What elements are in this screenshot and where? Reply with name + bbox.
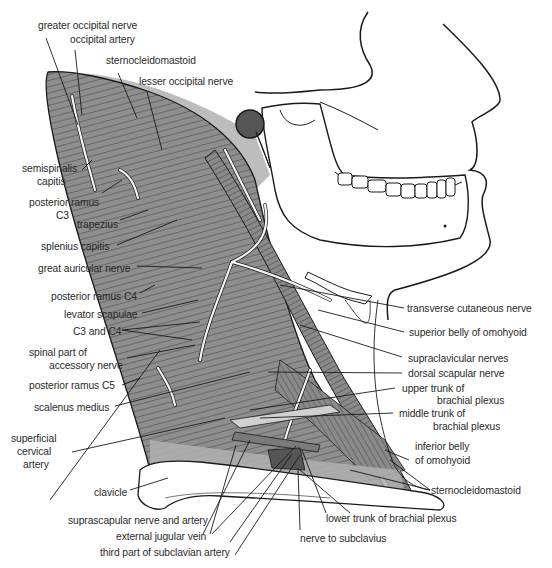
- label-posterior-ramus-c3-line1: posterior ramus: [29, 196, 99, 208]
- label-superficial-cervical-artery-line1: superficial: [11, 432, 56, 444]
- label-upper-trunk-line2: brachial plexus: [437, 394, 504, 406]
- label-superior-belly-omohyoid: superior belly of omohyoid: [409, 326, 527, 338]
- label-transverse-cutaneous-nerve: transverse cutaneous nerve: [407, 302, 532, 314]
- label-external-jugular-vein: external jugular vein: [116, 530, 206, 542]
- label-occipital-artery: occipital artery: [70, 33, 135, 45]
- neck-illustration: [0, 0, 552, 568]
- label-inferior-belly-omohyoid-line2: of omohyoid: [415, 454, 470, 466]
- label-posterior-ramus-c4: posterior ramus C4: [51, 290, 137, 302]
- label-c3-and-c4: C3 and C4: [73, 325, 121, 337]
- label-third-part-subclavian-artery: third part of subclavian artery: [100, 546, 230, 558]
- label-superficial-cervical-artery-line3: artery: [23, 458, 49, 470]
- label-upper-trunk-line1: upper trunk of: [402, 382, 464, 394]
- label-semispinalis-capitis-line1: semispinalis: [22, 162, 77, 174]
- label-sternocleidomastoid-top: sternocleidomastoid: [106, 54, 196, 66]
- label-splenius-capitis: splenius capitis: [41, 240, 109, 252]
- label-trapezius: trapezius: [77, 218, 118, 230]
- label-levator-scapulae: levator scapulae: [64, 308, 137, 320]
- label-suprascapular-nerve-artery: suprascapular nerve and artery: [68, 514, 208, 526]
- label-inferior-belly-omohyoid-line1: inferior belly: [415, 440, 469, 452]
- label-great-auricular-nerve: great auricular nerve: [38, 262, 130, 274]
- label-lesser-occipital-nerve: lesser occipital nerve: [139, 75, 233, 87]
- mandible: [262, 102, 468, 247]
- label-spinal-accessory-line2: accessory nerve: [49, 359, 123, 371]
- label-nerve-to-subclavius: nerve to subclavius: [300, 532, 386, 544]
- label-dorsal-scapular-nerve: dorsal scapular nerve: [408, 367, 504, 379]
- label-lower-trunk-brachial-plexus: lower trunk of brachial plexus: [326, 512, 457, 524]
- label-supraclavicular-nerves: supraclavicular nerves: [408, 352, 508, 364]
- label-superficial-cervical-artery-line2: cervical: [17, 445, 51, 457]
- label-posterior-ramus-c3-line2: C3: [56, 209, 69, 221]
- label-spinal-accessory-line1: spinal part of: [29, 346, 87, 358]
- label-sternocleidomastoid-bottom: sternocleidomastoid: [431, 484, 521, 496]
- label-greater-occipital-nerve: greater occipital nerve: [38, 19, 137, 31]
- label-semispinalis-capitis-line2: capitis: [37, 175, 66, 187]
- neck-anatomy-diagram: greater occipital nerve occipital artery…: [0, 0, 552, 568]
- label-clavicle: clavicle: [94, 486, 127, 498]
- label-posterior-ramus-c5: posterior ramus C5: [29, 379, 115, 391]
- label-middle-trunk-line1: middle trunk of: [399, 407, 465, 419]
- label-middle-trunk-line2: brachial plexus: [433, 420, 500, 432]
- label-scalenus-medius: scalenus medius: [34, 401, 109, 413]
